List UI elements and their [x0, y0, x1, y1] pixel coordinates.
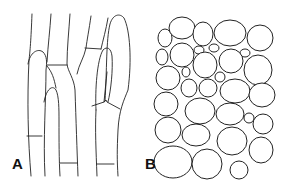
panel-label-b: B: [145, 156, 156, 171]
panel-b-drawing: [0, 0, 286, 191]
panel-label-a: A: [12, 156, 23, 171]
figure: A B: [0, 0, 286, 191]
